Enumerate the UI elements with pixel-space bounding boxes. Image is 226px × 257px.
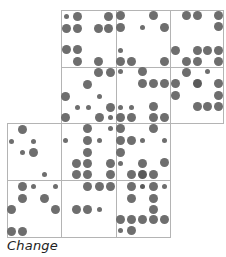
large-dot bbox=[214, 79, 223, 88]
large-dot bbox=[29, 148, 38, 157]
large-dot bbox=[72, 159, 81, 168]
small-dot bbox=[118, 161, 123, 166]
large-dot bbox=[214, 91, 223, 100]
large-dot bbox=[83, 170, 92, 179]
large-dot bbox=[83, 80, 92, 89]
small-dot bbox=[97, 207, 102, 212]
large-dot bbox=[160, 79, 169, 88]
large-dot bbox=[127, 182, 136, 191]
large-dot bbox=[83, 136, 92, 145]
small-dot bbox=[140, 184, 145, 189]
large-dot bbox=[116, 136, 125, 145]
large-dot bbox=[160, 57, 169, 66]
small-dot bbox=[140, 25, 145, 30]
large-dot bbox=[72, 170, 81, 179]
small-dot bbox=[140, 138, 145, 143]
small-dot bbox=[20, 150, 25, 155]
small-dot bbox=[97, 138, 102, 143]
large-dot bbox=[203, 102, 212, 111]
large-dot bbox=[62, 24, 71, 33]
large-dot bbox=[61, 92, 70, 101]
large-dot bbox=[149, 124, 158, 133]
small-dot bbox=[162, 138, 167, 143]
large-dot bbox=[138, 170, 147, 179]
large-dot bbox=[127, 57, 136, 66]
large-dot bbox=[214, 11, 223, 20]
large-dot bbox=[138, 67, 147, 76]
small-dot bbox=[118, 48, 123, 53]
large-dot bbox=[116, 57, 125, 66]
dot-grid-diagram bbox=[0, 0, 226, 257]
small-dot bbox=[108, 115, 113, 120]
large-dot bbox=[116, 113, 125, 122]
figure-caption: Change bbox=[7, 238, 58, 253]
grid-cell-r4c3 bbox=[116, 180, 171, 238]
large-dot bbox=[40, 194, 49, 203]
large-dot bbox=[171, 79, 180, 88]
small-dot bbox=[31, 184, 36, 189]
large-dot bbox=[193, 11, 202, 20]
large-dot bbox=[73, 12, 82, 21]
large-dot bbox=[149, 194, 158, 203]
large-dot bbox=[160, 158, 169, 167]
large-dot bbox=[193, 79, 202, 88]
large-dot bbox=[83, 205, 92, 214]
large-dot bbox=[193, 102, 202, 111]
large-dot bbox=[127, 136, 136, 145]
small-dot bbox=[63, 138, 68, 143]
small-dot bbox=[205, 69, 210, 74]
large-dot bbox=[127, 113, 136, 122]
large-dot bbox=[214, 22, 223, 31]
large-dot bbox=[18, 182, 27, 191]
small-dot bbox=[42, 172, 47, 177]
large-dot bbox=[127, 194, 136, 203]
small-dot bbox=[86, 105, 91, 110]
large-dot bbox=[116, 23, 125, 32]
large-dot bbox=[95, 182, 104, 191]
large-dot bbox=[94, 68, 103, 77]
large-dot bbox=[116, 215, 125, 224]
large-dot bbox=[149, 170, 158, 179]
large-dot bbox=[214, 102, 223, 111]
large-dot bbox=[83, 124, 92, 133]
large-dot bbox=[149, 205, 158, 214]
large-dot bbox=[171, 46, 180, 55]
large-dot bbox=[149, 182, 158, 191]
large-dot bbox=[94, 24, 103, 33]
small-dot bbox=[129, 105, 134, 110]
large-dot bbox=[83, 148, 92, 157]
large-dot bbox=[7, 205, 16, 214]
large-dot bbox=[51, 205, 60, 214]
small-dot bbox=[162, 184, 167, 189]
large-dot bbox=[182, 11, 191, 20]
large-dot bbox=[127, 215, 136, 224]
large-dot bbox=[83, 182, 92, 191]
small-dot bbox=[118, 69, 123, 74]
large-dot bbox=[160, 215, 169, 224]
large-dot bbox=[104, 12, 113, 21]
small-dot bbox=[118, 105, 123, 110]
large-dot bbox=[18, 125, 27, 134]
large-dot bbox=[72, 205, 81, 214]
large-dot bbox=[149, 215, 158, 224]
large-dot bbox=[73, 45, 82, 54]
large-dot bbox=[106, 159, 115, 168]
large-dot bbox=[214, 46, 223, 55]
large-dot bbox=[18, 227, 27, 236]
large-dot bbox=[73, 24, 82, 33]
small-dot bbox=[75, 105, 80, 110]
large-dot bbox=[106, 68, 115, 77]
large-dot bbox=[127, 226, 136, 235]
large-dot bbox=[106, 182, 115, 191]
large-dot bbox=[18, 194, 27, 203]
large-dot bbox=[138, 215, 147, 224]
large-dot bbox=[160, 113, 169, 122]
large-dot bbox=[104, 24, 113, 33]
large-dot bbox=[106, 170, 115, 179]
small-dot bbox=[53, 184, 58, 189]
large-dot bbox=[116, 124, 125, 133]
large-dot bbox=[127, 170, 136, 179]
small-dot bbox=[108, 126, 113, 131]
large-dot bbox=[138, 79, 147, 88]
large-dot bbox=[116, 11, 125, 20]
